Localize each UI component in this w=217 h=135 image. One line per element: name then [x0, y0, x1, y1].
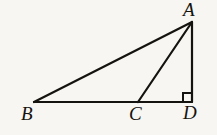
right-angle-marker-icon: [183, 93, 192, 102]
vertex-label-c: C: [129, 104, 142, 123]
geometry-figure: A B C D: [0, 0, 217, 135]
segment-BA: [34, 22, 192, 102]
segment-CA-cevian: [138, 22, 192, 102]
vertex-label-d: D: [183, 103, 197, 122]
vertex-label-b: B: [21, 104, 33, 123]
vertex-label-a: A: [183, 0, 195, 19]
